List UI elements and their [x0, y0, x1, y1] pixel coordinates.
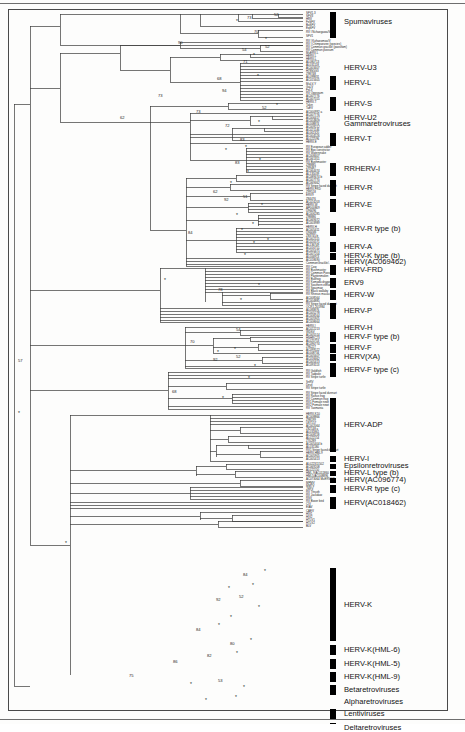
group-bracket — [330, 398, 336, 452]
group-bracket — [330, 456, 336, 462]
group-bracket — [330, 354, 336, 361]
group-bracket — [330, 76, 336, 90]
group-bracket — [330, 645, 336, 655]
group-label: HERV-K(HML-9) — [344, 673, 400, 681]
group-label: HERV-L — [344, 79, 371, 87]
group-bracket — [330, 253, 336, 260]
group-bracket — [330, 485, 336, 493]
group-label: HERV(AC096774) — [344, 476, 406, 484]
group-bracket — [330, 303, 336, 319]
group-bracket — [330, 685, 336, 695]
group-label: HERV-K(HML-5) — [344, 660, 400, 668]
group-bracket — [330, 568, 336, 641]
group-label: ERV9 — [344, 279, 364, 287]
group-bracket — [330, 97, 336, 111]
group-label: HERV-S — [344, 100, 372, 108]
group-label: HERV-FRD — [344, 266, 383, 274]
group-bracket — [330, 332, 336, 342]
group-bracket — [330, 265, 336, 275]
group-bracket — [330, 344, 336, 353]
group-label: HERV-F type (c) — [344, 366, 399, 374]
group-bracket — [330, 12, 336, 38]
group-bracket — [330, 672, 336, 682]
group-label: HERV-K(HML-6) — [344, 646, 400, 654]
group-label: HERV-P — [344, 307, 372, 315]
group-bracket — [330, 363, 336, 377]
group-label: HERV-W — [344, 291, 374, 299]
group-bracket — [330, 478, 336, 483]
group-label: HERV(XA) — [344, 353, 380, 361]
group-bracket — [330, 464, 336, 469]
group-label: Betaretroviruses — [344, 686, 399, 694]
group-label: HERV-A — [344, 243, 372, 251]
group-bracket — [330, 278, 336, 288]
group-label: HERV-T — [344, 135, 372, 143]
group-label: Spumaviruses — [344, 18, 392, 26]
group-bracket — [330, 659, 336, 669]
group-bracket — [330, 471, 336, 476]
group-bracket — [330, 163, 336, 176]
group-label: HERV-R type (b) — [344, 225, 400, 233]
group-label: RRHERV-I — [344, 165, 380, 173]
group-bracket — [330, 199, 336, 212]
group-bracket — [330, 497, 336, 509]
group-label: HERV-U3 — [344, 64, 377, 72]
group-bracket — [330, 133, 336, 146]
group-label: HERV-E — [344, 201, 372, 209]
group-label: Lentiviruses — [344, 710, 385, 718]
group-label: HERV-K — [344, 601, 372, 609]
group-label: HERV-R type (c) — [344, 485, 400, 493]
group-label: Gammaretroviruses — [344, 120, 411, 128]
group-label: HERV-ADP — [344, 421, 383, 429]
group-bracket — [330, 709, 336, 719]
group-bracket — [330, 223, 336, 236]
group-label: HERV-R — [344, 184, 373, 192]
group-bracket — [330, 242, 336, 252]
group-label: Alpharetroviruses — [344, 698, 403, 706]
group-bracket — [330, 180, 336, 196]
group-label: Deltaretroviruses — [344, 724, 401, 732]
group-label: HERV-F — [344, 344, 372, 352]
group-bracket — [330, 290, 336, 300]
group-label: HERV(AC018462) — [344, 499, 406, 507]
group-label: HERV-H — [344, 324, 373, 332]
group-bracket — [330, 723, 336, 724]
group-label: HERV-F type (b) — [344, 333, 400, 341]
